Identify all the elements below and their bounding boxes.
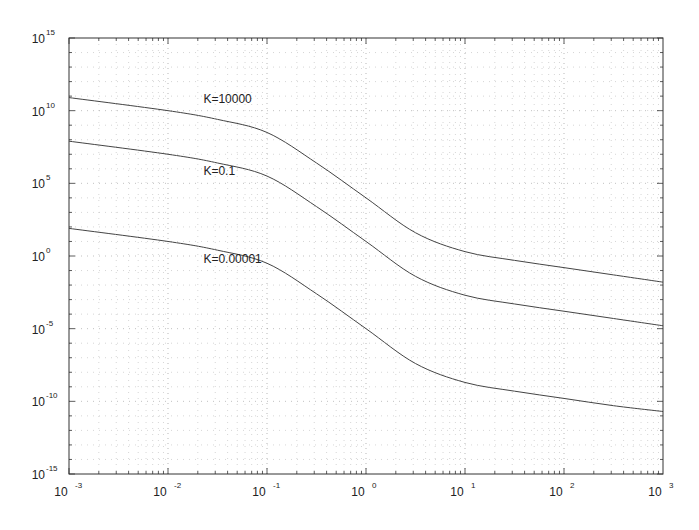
- x-tick-exponent: -3: [75, 481, 83, 490]
- x-tick-label: 10: [54, 485, 68, 499]
- y-tick-label: 10: [32, 468, 46, 482]
- y-tick-label: 10: [32, 32, 46, 46]
- x-tick-exponent: 3: [669, 481, 674, 490]
- grid-lines: [69, 38, 663, 474]
- x-tick-exponent: -2: [174, 481, 182, 490]
- x-tick-label: 10: [153, 485, 167, 499]
- x-tick-label: 10: [351, 485, 365, 499]
- curves: [69, 98, 663, 412]
- curve-label: K=0.00001: [203, 252, 262, 266]
- y-tick-label: 10: [32, 323, 46, 337]
- x-tick-exponent: -1: [273, 481, 281, 490]
- y-tick-exponent: -5: [46, 319, 54, 328]
- x-tick-exponent: 0: [372, 481, 377, 490]
- y-tick-exponent: -10: [46, 391, 58, 400]
- y-tick-label: 10: [32, 250, 46, 264]
- x-tick-exponent: 2: [570, 481, 575, 490]
- y-tick-exponent: 15: [46, 28, 55, 37]
- x-tick-exponent: 1: [471, 481, 476, 490]
- tick-labels: 10-310-210-11001011021031015101010510010…: [32, 28, 674, 499]
- curve-label: K=10000: [203, 92, 252, 106]
- curve-label: K=0.1: [203, 164, 235, 178]
- y-tick-exponent: 5: [46, 173, 51, 182]
- x-tick-label: 10: [252, 485, 266, 499]
- x-tick-label: 10: [450, 485, 464, 499]
- y-tick-label: 10: [32, 105, 46, 119]
- y-tick-label: 10: [32, 177, 46, 191]
- y-tick-label: 10: [32, 395, 46, 409]
- y-tick-exponent: 0: [46, 246, 51, 255]
- y-tick-exponent: 10: [46, 101, 55, 110]
- x-tick-label: 10: [549, 485, 563, 499]
- x-tick-label: 10: [648, 485, 662, 499]
- y-tick-exponent: -15: [46, 464, 58, 473]
- log-log-chart: 10-310-210-11001011021031015101010510010…: [0, 0, 699, 530]
